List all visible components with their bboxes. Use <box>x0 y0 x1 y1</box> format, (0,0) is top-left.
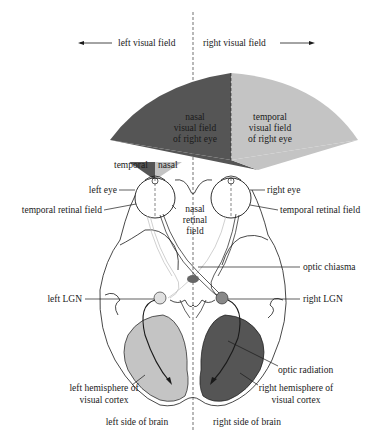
right-visual-cortex <box>200 315 264 401</box>
nasal-field-line1: nasal <box>185 112 205 122</box>
right-visual-field-label: right visual field <box>203 38 266 48</box>
right-arrow-icon <box>280 41 315 45</box>
nasal-retinal-field-line1: nasal <box>185 204 205 214</box>
nasal-field-line2: visual field <box>174 123 217 133</box>
temporal-retinal-field-left-label: temporal retinal field <box>22 205 102 215</box>
left-side-of-brain-label: left side of brain <box>106 417 169 427</box>
right-hemisphere-line2: visual cortex <box>272 395 321 405</box>
nasal-visual-field-right-eye <box>110 73 231 160</box>
left-eye-label: left eye <box>89 185 117 195</box>
left-hemisphere-line1: left hemisphere of <box>69 383 139 393</box>
optic-radiation-label: optic radiation <box>278 365 333 375</box>
right-hemisphere-line1: right hemisphere of <box>259 383 334 393</box>
right-side-of-brain-label: right side of brain <box>213 417 281 427</box>
small-nasal-label: nasal <box>158 160 178 170</box>
right-lgn <box>216 292 228 304</box>
temporal-visual-field-right-eye <box>231 73 358 160</box>
right-lgn-label: right LGN <box>303 294 343 304</box>
left-hemisphere-line2: visual cortex <box>80 395 129 405</box>
visual-pathway-diagram: left visual field right visual field nas… <box>0 0 379 436</box>
nasal-field-line3: of right eye <box>173 134 217 144</box>
temporal-field-line3: of right eye <box>248 134 292 144</box>
temporal-field-line1: temporal <box>253 112 287 122</box>
right-eye-label: right eye <box>267 185 301 195</box>
left-lgn-label: left LGN <box>47 294 82 304</box>
temporal-retinal-field-right-label: temporal retinal field <box>280 205 360 215</box>
small-temporal-label: temporal <box>114 160 148 170</box>
optic-chiasma-label: optic chiasma <box>303 262 356 272</box>
left-arrow-icon <box>78 41 112 45</box>
pituitary-spot <box>187 275 199 283</box>
left-lgn <box>154 292 166 304</box>
nasal-retinal-field-line2: retinal <box>183 215 208 225</box>
temporal-field-line2: visual field <box>249 123 292 133</box>
nasal-retinal-field-line3: field <box>186 226 204 236</box>
left-visual-field-label: left visual field <box>118 38 176 48</box>
